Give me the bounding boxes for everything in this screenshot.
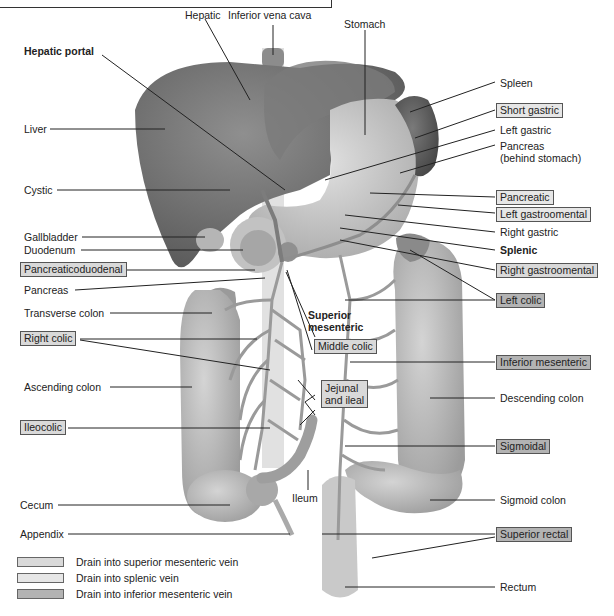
label-inferior-mesenteric: Inferior mesenteric: [496, 355, 591, 370]
label-jejunal-ileal-line2: and ileal: [325, 394, 364, 406]
label-superior-mesenteric-line2: mesenteric: [308, 321, 363, 333]
label-pancreaticoduodenal: Pancreaticoduodenal: [20, 262, 127, 277]
legend: Drain into superior mesenteric vein Drai…: [17, 555, 238, 603]
label-descending-colon: Descending colon: [500, 392, 583, 404]
legend-label: Drain into splenic vein: [76, 572, 179, 584]
label-inferior-vena-cava: Inferior vena cava: [228, 9, 311, 21]
label-left-gastric: Left gastric: [500, 124, 551, 136]
pancreas-head: [240, 230, 276, 266]
label-hepatic-portal: Hepatic portal: [24, 45, 94, 57]
label-middle-colic: Middle colic: [314, 339, 377, 354]
label-left-gastroomental: Left gastroomental: [496, 207, 591, 222]
label-appendix: Appendix: [20, 528, 64, 540]
label-pancreas-behind-stomach: Pancreas (behind stomach): [500, 140, 581, 164]
legend-label: Drain into superior mesenteric vein: [76, 556, 238, 568]
label-short-gastric: Short gastric: [496, 103, 563, 118]
legend-swatch-inferior-mesenteric: [17, 589, 64, 599]
label-spleen: Spleen: [500, 77, 533, 89]
legend-swatch-superior-mesenteric: [17, 557, 64, 567]
label-ascending-colon: Ascending colon: [24, 381, 101, 393]
legend-item-splenic: Drain into splenic vein: [17, 571, 238, 585]
legend-swatch-splenic: [17, 573, 64, 583]
legend-item-inferior-mesenteric: Drain into inferior mesenteric vein: [17, 587, 238, 601]
label-jejunal-ileal: Jejunal and ileal: [321, 380, 368, 408]
label-left-colic: Left colic: [496, 293, 545, 308]
label-pancreatic: Pancreatic: [496, 190, 554, 205]
label-hepatic: Hepatic: [185, 9, 221, 21]
label-pancreas-behind-line1: Pancreas: [500, 140, 581, 152]
label-cecum: Cecum: [20, 499, 53, 511]
label-gallbladder: Gallbladder: [24, 231, 78, 243]
label-duodenum: Duodenum: [24, 244, 75, 256]
label-rectum: Rectum: [500, 581, 536, 593]
label-transverse-colon: Transverse colon: [24, 307, 104, 319]
label-ileocolic: Ileocolic: [20, 420, 66, 435]
label-right-gastroomental: Right gastroomental: [496, 263, 598, 278]
label-superior-rectal: Superior rectal: [496, 527, 572, 542]
gallbladder: [196, 228, 224, 252]
legend-label: Drain into inferior mesenteric vein: [76, 588, 232, 600]
label-sigmoid-colon: Sigmoid colon: [500, 494, 566, 506]
label-pancreas-behind-line2: (behind stomach): [500, 152, 581, 164]
legend-item-superior-mesenteric: Drain into superior mesenteric vein: [17, 555, 238, 569]
descending-colon: [393, 240, 465, 495]
label-pancreas: Pancreas: [24, 284, 68, 296]
label-jejunal-ileal-line1: Jejunal: [325, 382, 364, 394]
label-ileum: Ileum: [292, 492, 318, 504]
appendix: [275, 500, 292, 535]
label-stomach: Stomach: [344, 18, 385, 30]
label-right-colic: Right colic: [20, 331, 76, 346]
label-liver: Liver: [24, 123, 47, 135]
label-superior-mesenteric: Superior mesenteric: [308, 309, 363, 333]
label-superior-mesenteric-line1: Superior: [308, 309, 363, 321]
label-cystic: Cystic: [24, 184, 53, 196]
label-sigmoidal: Sigmoidal: [496, 439, 550, 454]
label-right-gastric: Right gastric: [500, 226, 558, 238]
label-splenic: Splenic: [500, 244, 537, 256]
